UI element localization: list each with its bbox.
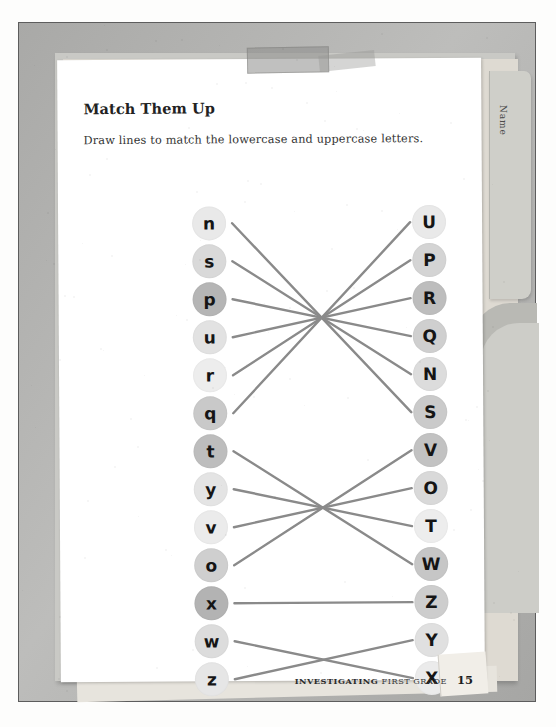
scan-speckle [381, 33, 383, 35]
scan-speckle [200, 240, 201, 241]
scan-speckle [411, 601, 412, 602]
scan-speckle [336, 91, 337, 92]
lowercase-letter-bubble-w[interactable]: w [195, 624, 229, 658]
scan-speckle [487, 390, 489, 392]
uppercase-letter-bubble-U[interactable]: U [412, 205, 446, 239]
letter-label: U [422, 212, 436, 232]
lowercase-letter-bubble-q[interactable]: q [193, 396, 227, 430]
letter-label: s [204, 251, 214, 271]
lowercase-letter-bubble-v[interactable]: v [194, 510, 228, 544]
scan-speckle [331, 248, 333, 250]
uppercase-letter-bubble-Q[interactable]: Q [413, 319, 447, 353]
uppercase-letter-bubble-Z[interactable]: Z [414, 585, 448, 619]
page-footer: INVESTIGATING FIRST GRADE 15 [19, 673, 537, 687]
letter-label: t [206, 441, 214, 461]
scan-speckle [176, 315, 177, 316]
scan-speckle [399, 113, 400, 114]
scan-speckle [66, 690, 68, 692]
scan-speckle [213, 644, 214, 645]
page-title: Match Them Up [83, 98, 463, 117]
scan-speckle [47, 212, 49, 214]
letter-label: N [423, 364, 437, 384]
footer-brand: INVESTIGATING FIRST GRADE [295, 676, 447, 686]
letter-label: R [423, 288, 436, 308]
letter-label: T [425, 516, 437, 536]
scan-speckle [22, 590, 23, 591]
scan-speckle [381, 210, 383, 212]
folder-name-tab-label: Name [498, 105, 508, 136]
uppercase-letter-bubble-W[interactable]: W [414, 547, 448, 581]
scan-speckle [510, 612, 512, 614]
uppercase-letter-bubble-R[interactable]: R [412, 281, 446, 315]
uppercase-letter-bubble-P[interactable]: P [412, 243, 446, 277]
instruction-text: Draw lines to match the lowercase and up… [84, 132, 464, 147]
letter-label: Y [425, 630, 437, 650]
scan-speckle [221, 485, 222, 486]
letter-label: y [205, 479, 216, 499]
letter-label: o [205, 555, 217, 575]
letter-label: n [203, 213, 215, 233]
scan-speckle [209, 225, 211, 227]
letter-label: S [424, 402, 436, 422]
worksheet-screenshot: Name Match Them Up Draw lines to match t… [0, 0, 556, 727]
letter-label: Z [425, 592, 437, 612]
letter-label: O [423, 478, 438, 498]
lowercase-letter-bubble-x[interactable]: x [194, 586, 228, 620]
scan-speckle [84, 557, 86, 559]
scan-speckle [304, 405, 305, 406]
scan-speckle [114, 466, 116, 468]
letter-label: W [422, 554, 441, 574]
scan-speckle [271, 87, 273, 89]
scan-speckle [31, 385, 32, 386]
letter-label: q [204, 403, 216, 423]
scan-speckle [453, 529, 455, 531]
footer-brand-light: FIRST GRADE [382, 676, 447, 686]
uppercase-letter-bubble-V[interactable]: V [413, 433, 447, 467]
worksheet-page: Match Them Up Draw lines to match the lo… [57, 58, 485, 683]
connection-lines[interactable] [98, 198, 511, 710]
scan-speckle [163, 139, 165, 141]
lowercase-letter-bubble-n[interactable]: n [192, 206, 226, 240]
tape-strip [247, 46, 329, 73]
scan-speckle [216, 83, 218, 85]
scan-speckle [181, 39, 183, 41]
scan-speckle [144, 375, 145, 376]
lowercase-letter-bubble-o[interactable]: o [194, 548, 228, 582]
letter-label: V [424, 440, 437, 460]
scan-speckle [326, 290, 328, 292]
scan-speckle [66, 56, 68, 58]
scan-speckle [130, 418, 132, 420]
match-line-x-to-Z[interactable] [234, 602, 412, 603]
lowercase-letter-bubble-t[interactable]: t [193, 434, 227, 468]
scan-speckle [156, 667, 158, 669]
scan-speckle [196, 191, 198, 193]
scan-speckle [347, 397, 349, 399]
scan-speckle [306, 102, 308, 104]
lowercase-letter-bubble-r[interactable]: r [193, 358, 227, 392]
letter-label: u [204, 327, 216, 347]
scan-speckle [186, 319, 188, 321]
scan-speckle [476, 406, 478, 408]
scan-speckle [253, 396, 255, 398]
lowercase-letter-bubble-p[interactable]: p [192, 282, 226, 316]
uppercase-letter-bubble-T[interactable]: T [414, 509, 448, 543]
scan-speckle [493, 602, 495, 604]
uppercase-letter-bubble-S[interactable]: S [413, 395, 447, 429]
scan-speckle [450, 122, 452, 124]
uppercase-letter-bubble-O[interactable]: O [414, 471, 448, 505]
letter-label: P [423, 250, 436, 270]
footer-brand-bold: INVESTIGATING [295, 676, 379, 686]
scan-frame: Name Match Them Up Draw lines to match t… [18, 22, 536, 702]
scan-speckle [53, 263, 55, 265]
scan-speckle [353, 287, 355, 289]
scan-speckle [225, 367, 226, 368]
letter-label: w [204, 631, 220, 651]
letter-label: x [206, 593, 217, 613]
lowercase-letter-bubble-s[interactable]: s [192, 244, 226, 278]
lowercase-letter-bubble-u[interactable]: u [193, 320, 227, 354]
uppercase-letter-bubble-Y[interactable]: Y [415, 623, 449, 657]
lowercase-letter-bubble-y[interactable]: y [194, 472, 228, 506]
matching-exercise: nspurqtyvoxwz UPRQNSVOTWZYX [98, 198, 511, 710]
scan-speckle [104, 25, 105, 26]
scan-speckle [234, 394, 235, 395]
